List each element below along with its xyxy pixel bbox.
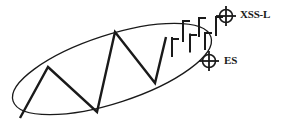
strike-dip-symbol-group: [172, 16, 223, 57]
label-es: ES: [224, 54, 237, 66]
zigzag-axial-trace: [20, 32, 166, 118]
label-xss-l: XSS-L: [240, 8, 270, 20]
zigzag-polyline: [20, 32, 166, 118]
fold-outline-ellipse: [3, 5, 222, 133]
strike-dip-symbol: [172, 37, 179, 57]
strike-dip-symbol: [190, 34, 197, 53]
ellipse-path: [3, 5, 222, 133]
horizontal-bedding-icon: [199, 51, 219, 71]
horizontal-bedding-icon: [216, 6, 236, 26]
figure-canvas: XSS-L ES: [0, 0, 283, 133]
geologic-structure-diagram: XSS-L ES: [0, 0, 283, 133]
